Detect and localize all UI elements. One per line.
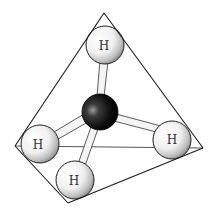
atom-label: H (33, 138, 43, 152)
bond-top (97, 60, 108, 97)
atom-label: H (167, 133, 177, 147)
methane-tetrahedron-diagram: H H H H (0, 0, 216, 223)
carbon-atom (82, 94, 118, 130)
hydrogen-left: H (21, 125, 59, 163)
hydrogen-right: H (153, 121, 191, 159)
bond-bottom (78, 124, 99, 166)
hydrogen-bottom: H (56, 161, 94, 199)
atom-label: H (99, 39, 109, 53)
bond-right (114, 114, 161, 133)
atom-label: H (69, 174, 79, 188)
